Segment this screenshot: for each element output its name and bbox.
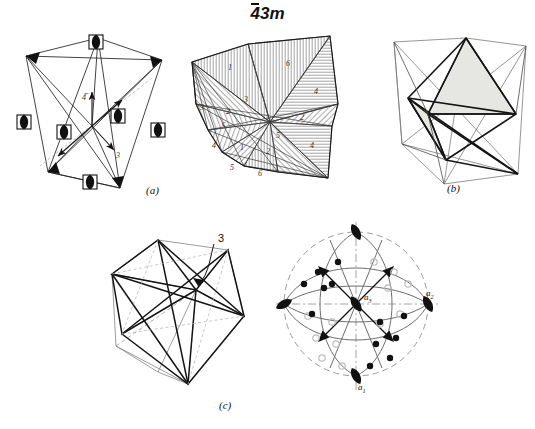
sector-num-c: c	[222, 119, 226, 128]
fourbar-symbol-inner-right	[111, 108, 125, 123]
axis-label-4bar: 4̅	[82, 93, 89, 102]
panel-b-inner-tetrahedron	[372, 26, 534, 198]
construction-lines	[112, 240, 244, 384]
axis-label-a2: a2	[426, 288, 434, 300]
title-rest: 3m	[260, 4, 285, 23]
sector-num-2c: 2	[226, 107, 230, 116]
sector-num-6b: 6	[258, 169, 262, 178]
caption-a: (a)	[146, 184, 159, 196]
sector-num-1b: 1	[240, 143, 244, 152]
page-title: 43m	[0, 4, 535, 24]
sector-num-3: 3	[243, 95, 248, 104]
caption-c: (c)	[219, 399, 231, 411]
panel-general-form-hatched: 1 6 4 2 4 2 6 5 1 4 c 3 3 2 5	[182, 26, 350, 198]
axis-label-a1: a1	[358, 382, 366, 394]
sector-num-4c: 4	[212, 141, 216, 150]
sector-num-5: 5	[230, 163, 234, 172]
sector-num-6: 6	[286, 59, 290, 68]
sector-num-2: 2	[300, 113, 304, 122]
fourbar-symbol-top	[89, 34, 103, 49]
fourbar-symbol-right	[151, 122, 165, 137]
sector-num-3b: 3	[199, 103, 204, 112]
fourbar-symbol-inner-left	[57, 124, 71, 139]
axis-label-a3: a3	[364, 292, 372, 304]
axis-label-3: 3	[115, 151, 120, 160]
tetrahedron-edges	[26, 38, 162, 188]
sector-num-4b: 4	[310, 141, 314, 150]
title-overbar-char: 4	[250, 4, 259, 24]
label-three: 3	[218, 232, 224, 244]
inner-tetrahedron-faces	[408, 38, 516, 160]
fourbar-symbol-bottom	[83, 174, 97, 189]
sector-num-2b: 2	[266, 147, 270, 156]
fourbar-symbol-left	[17, 114, 31, 129]
panel-stereographic-projection: a3 a2 a1	[268, 218, 444, 396]
sector-num-5b: 5	[276, 131, 280, 140]
panel-c-cube-polyhedron: 3	[92, 216, 270, 394]
figure-root: 43m	[0, 0, 535, 429]
sector-num-1: 1	[228, 63, 232, 72]
vertex-arrowheads	[26, 52, 162, 188]
panel-a-tetrahedron-symmetry: 4̅ 3	[2, 26, 180, 198]
sector-num-4: 4	[314, 87, 318, 96]
caption-b: (b)	[447, 182, 460, 194]
